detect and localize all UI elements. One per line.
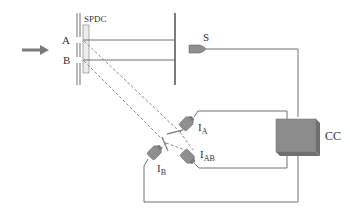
diagram-canvas: S IA IB IAB CC SPDC A B — [0, 0, 350, 217]
label-cc: CC — [325, 129, 341, 143]
beam-splitter-2 — [162, 137, 168, 151]
wire-ia-cc — [194, 111, 287, 119]
wires — [144, 111, 298, 202]
label-spdc: SPDC — [84, 14, 107, 24]
double-slit-barrier — [77, 13, 80, 85]
label-a: A — [62, 34, 70, 46]
label-s: S — [203, 31, 209, 43]
beam-paths — [83, 40, 175, 60]
detector-s — [189, 45, 206, 53]
coincidence-counter — [276, 119, 320, 156]
label-ia: IA — [198, 121, 208, 136]
wire-ib-cc — [144, 152, 298, 202]
label-b: B — [63, 54, 70, 66]
wire-s-cc — [206, 49, 298, 117]
idler-beams — [84, 41, 193, 150]
detector-ia — [179, 114, 197, 132]
label-ib: IB — [157, 162, 166, 177]
detector-ib — [147, 143, 165, 161]
label-iab: IAB — [200, 148, 215, 163]
pump-arrow — [22, 45, 49, 55]
